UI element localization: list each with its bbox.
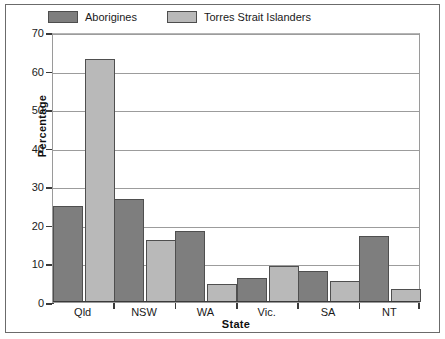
x-tick-label: WA — [197, 306, 214, 318]
bar-sa-1 — [330, 281, 360, 302]
x-tick-mark — [175, 303, 177, 309]
bar-nsw-0 — [114, 199, 144, 302]
bars-layer — [53, 34, 419, 302]
y-tick-label: 20 — [0, 220, 44, 232]
x-tick-label: Vic. — [258, 306, 276, 318]
bar-wa-0 — [175, 231, 205, 302]
bar-qld-1 — [85, 59, 115, 302]
bar-vic-0 — [237, 278, 267, 302]
bar-wa-1 — [207, 284, 237, 302]
y-tick-label: 0 — [0, 297, 44, 309]
y-tick-mark — [46, 72, 52, 74]
x-axis-baseline — [53, 301, 419, 303]
y-tick-label: 30 — [0, 181, 44, 193]
x-tick-mark — [297, 303, 299, 309]
y-tick-mark — [46, 303, 52, 305]
y-tick-mark — [46, 226, 52, 228]
x-tick-label: NSW — [131, 306, 157, 318]
x-tick-label: Qld — [74, 306, 91, 318]
legend-swatch-icon — [167, 11, 197, 23]
x-tick-mark — [359, 303, 361, 309]
bar-vic-1 — [269, 266, 299, 302]
bar-sa-0 — [298, 271, 328, 302]
plot-area — [52, 33, 420, 303]
x-tick-mark — [418, 303, 420, 309]
legend-item-1: Torres Strait Islanders — [167, 11, 311, 23]
y-axis-title: Percentage — [36, 76, 48, 176]
legend-item-0: Aborigines — [48, 11, 137, 23]
y-tick-label: 10 — [0, 258, 44, 270]
x-axis-title: State — [52, 318, 420, 330]
y-tick-mark — [46, 264, 52, 266]
bar-chart-figure: AboriginesTorres Strait Islanders 010203… — [0, 0, 445, 339]
x-tick-label: SA — [321, 306, 336, 318]
chart-legend: AboriginesTorres Strait Islanders — [48, 9, 311, 25]
x-tick-mark — [236, 303, 238, 309]
legend-label: Torres Strait Islanders — [204, 11, 311, 23]
y-tick-label: 70 — [0, 27, 44, 39]
x-tick-mark — [113, 303, 115, 309]
y-tick-mark — [46, 33, 52, 35]
y-tick-mark — [46, 187, 52, 189]
legend-swatch-icon — [48, 11, 78, 23]
bar-nsw-1 — [146, 240, 176, 302]
bar-nt-0 — [359, 236, 389, 302]
bar-qld-0 — [53, 206, 83, 302]
x-tick-label: NT — [382, 306, 397, 318]
legend-label: Aborigines — [85, 11, 137, 23]
